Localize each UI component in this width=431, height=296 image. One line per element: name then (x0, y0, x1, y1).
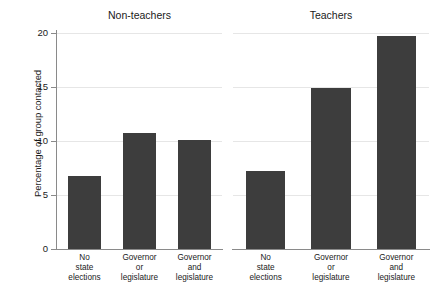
x-axis-category-label-line: legislature (362, 273, 430, 283)
x-axis-category-label-line: and (362, 263, 430, 273)
x-axis-category-label: Governorandlegislature (161, 253, 229, 284)
x-axis-category-label-line: Governor (362, 253, 430, 263)
x-axis-category-label-line: Governor (297, 253, 365, 263)
y-axis-tick-label: 0 (8, 244, 48, 254)
x-axis-category-label-line: legislature (297, 273, 365, 283)
panel-title-teachers: Teachers (233, 9, 429, 21)
y-axis-tick (51, 87, 56, 88)
gridline (57, 87, 222, 88)
bar (178, 140, 211, 249)
y-axis-tick (51, 33, 56, 34)
x-axis-category-label-line: legislature (161, 273, 229, 283)
x-axis-category-label-line: and (161, 263, 229, 273)
y-axis-tick-label: 15 (8, 82, 48, 92)
x-axis-category-label-line: No (232, 253, 300, 263)
y-axis-title: Percentage of group contacted (32, 24, 43, 244)
panel-non-teachers: Non-teachers (57, 33, 222, 249)
bar (123, 133, 156, 249)
x-axis-category-label-line: state (232, 263, 300, 273)
x-axis-category-label: Nostateelections (232, 253, 300, 284)
x-axis-category-label-line: or (297, 263, 365, 273)
bar-chart-figure: Percentage of group contacted 05101520 N… (0, 0, 431, 296)
y-axis-tick (51, 141, 56, 142)
gridline (233, 33, 429, 34)
x-axis-category-label: Governorandlegislature (362, 253, 430, 284)
bar (246, 171, 285, 249)
y-axis-tick-label: 10 (8, 136, 48, 146)
x-axis-line-right-panel (232, 249, 430, 250)
x-axis-category-label-line: elections (232, 273, 300, 283)
y-axis-tick-label: 20 (8, 28, 48, 38)
y-axis-tick (51, 195, 56, 196)
panel-title-non-teachers: Non-teachers (57, 9, 222, 21)
y-axis-tick-label: 5 (8, 190, 48, 200)
panel-teachers: Teachers (233, 33, 429, 249)
bar (311, 88, 350, 249)
bar (68, 176, 101, 249)
x-axis-line-left-panel (56, 249, 223, 250)
bar (377, 36, 416, 249)
x-axis-category-label-line: Governor (161, 253, 229, 263)
gridline (57, 33, 222, 34)
x-axis-category-label: Governororlegislature (297, 253, 365, 284)
